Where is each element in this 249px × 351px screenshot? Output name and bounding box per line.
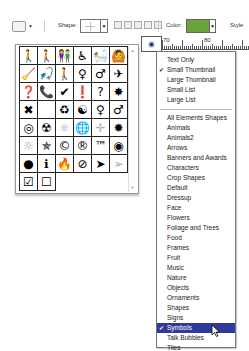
shape-cell[interactable]: ✛ <box>92 119 110 137</box>
menu-item-text-only[interactable]: Text Only <box>157 55 235 65</box>
shape-cell[interactable]: ⚛ <box>56 119 74 137</box>
shape-cell[interactable]: ☼ <box>20 137 38 155</box>
menu-item-all-elements-shapes[interactable]: All Elements Shapes <box>157 113 235 123</box>
ruler-tick <box>208 46 209 49</box>
menu-item-frames[interactable]: Frames <box>157 243 235 253</box>
shape-cell[interactable]: ® <box>74 137 92 155</box>
menu-item-label: Symbols <box>167 324 192 331</box>
shape-cell[interactable]: ™ <box>92 137 110 155</box>
menu-item-large-thumbnail[interactable]: Large Thumbnail <box>157 75 235 85</box>
shape-cell[interactable]: ☑ <box>20 173 38 191</box>
menu-item-tiles[interactable]: Tiles <box>157 343 235 351</box>
menu-item-arrows[interactable]: Arrows <box>157 143 235 153</box>
shape-cell[interactable] <box>38 101 56 119</box>
shape-cell[interactable]: ♀ <box>92 101 110 119</box>
menu-item-label: Banners and Awards <box>167 154 227 161</box>
scrollbar[interactable]: ▲ ▼ <box>128 46 135 192</box>
menu-item-dressup[interactable]: Dressup <box>157 193 235 203</box>
shape-cell[interactable]: ♀ <box>74 65 92 83</box>
menu-item-music[interactable]: Music <box>157 263 235 273</box>
menu-item-nature[interactable]: Nature <box>157 273 235 283</box>
menu-item-small-list[interactable]: Small List <box>157 85 235 95</box>
shape-cell[interactable]: 🚶 <box>20 47 38 65</box>
shape-cell[interactable]: © <box>56 137 74 155</box>
add-mode-icon[interactable] <box>124 21 132 29</box>
shape-cell[interactable]: ✹ <box>110 119 128 137</box>
menu-item-food[interactable]: Food <box>157 233 235 243</box>
menu-item-flowers[interactable]: Flowers <box>157 213 235 223</box>
shape-cell[interactable]: ✯ <box>38 137 56 155</box>
menu-item-foliage-and-trees[interactable]: Foliage and Trees <box>157 223 235 233</box>
ruler-tick <box>246 46 247 49</box>
question-box-icon: ❓ <box>21 86 36 98</box>
ruler-tick <box>174 46 175 49</box>
tool-preset-picker[interactable]: ▼ <box>12 20 34 32</box>
menu-item-crop-shapes[interactable]: Crop Shapes <box>157 173 235 183</box>
ruler-tick <box>178 46 179 49</box>
shape-cell[interactable]: ✔ <box>56 83 74 101</box>
panel-menu-button[interactable] <box>141 36 162 52</box>
menu-item-small-thumbnail[interactable]: ✔Small Thumbnail <box>157 65 235 75</box>
menu-item-characters[interactable]: Characters <box>157 163 235 173</box>
menu-item-animals[interactable]: Animals <box>157 123 235 133</box>
shape-cell[interactable]: ☯ <box>74 101 92 119</box>
menu-item-shapes[interactable]: Shapes <box>157 303 235 313</box>
shape-cell[interactable]: ❗ <box>74 83 92 101</box>
intersect-mode-icon[interactable] <box>144 21 152 29</box>
shape-cell[interactable]: ✖ <box>20 101 38 119</box>
shape-cell[interactable]: ♻ <box>56 101 74 119</box>
splat-2-icon: ✹ <box>113 122 123 134</box>
menu-item-talk-bubbles[interactable]: Talk Bubbles <box>157 333 235 343</box>
menu-item-face[interactable]: Face <box>157 203 235 213</box>
menu-item-fruit[interactable]: Fruit <box>157 253 235 263</box>
menu-item-large-list[interactable]: Large List <box>157 95 235 105</box>
shape-cell[interactable]: 🎣 <box>38 65 56 83</box>
shape-cell[interactable]: 🚶 <box>56 65 74 83</box>
menu-item-banners-and-awards[interactable]: Banners and Awards <box>157 153 235 163</box>
menu-item-signs[interactable]: Signs <box>157 313 235 323</box>
shape-cell[interactable]: ✈ <box>110 65 128 83</box>
shape-cell[interactable]: ✸ <box>110 83 128 101</box>
menu-item-default[interactable]: Default <box>157 183 235 193</box>
shape-cell[interactable]: ➤ <box>92 155 110 173</box>
shape-cell[interactable]: 🧹 <box>20 65 38 83</box>
shape-cell[interactable]: 🌐 <box>74 119 92 137</box>
shape-cell[interactable]: ♂ <box>110 101 128 119</box>
shape-cell[interactable]: ℹ <box>38 155 56 173</box>
menu-item-label: Fruit <box>167 254 180 261</box>
shape-cell[interactable]: ☐ <box>38 173 56 191</box>
sun-light-icon: ☼ <box>23 140 34 152</box>
shape-cell[interactable]: 🛀 <box>92 47 110 65</box>
scroll-up-icon[interactable]: ▲ <box>129 48 136 53</box>
ruler-tick <box>164 46 165 49</box>
shape-cell[interactable]: ♿ <box>74 47 92 65</box>
shape-cell[interactable]: ● <box>20 155 38 173</box>
menu-item-animals2[interactable]: Animals2 <box>157 133 235 143</box>
shape-cell[interactable]: 🔥 <box>56 155 74 173</box>
scroll-down-icon[interactable]: ▼ <box>129 185 136 190</box>
ruler-tick <box>166 46 167 49</box>
shape-cell[interactable]: ♂ <box>92 65 110 83</box>
shape-cell[interactable]: ➢ <box>110 155 128 173</box>
shape-cell[interactable]: ☢ <box>38 119 56 137</box>
menu-item-label: Arrows <box>167 144 187 151</box>
shape-cell[interactable]: ⊘ <box>74 155 92 173</box>
shape-cell[interactable]: ◎ <box>20 119 38 137</box>
shape-cell[interactable]: 👫 <box>56 47 74 65</box>
shape-cell[interactable]: ? <box>92 83 110 101</box>
menu-item-ornaments[interactable]: Ornaments <box>157 293 235 303</box>
shape-cell[interactable]: 🙆 <box>110 47 128 65</box>
new-layer-mode-icon[interactable] <box>114 21 122 29</box>
shape-picker-dropdown[interactable]: ▼ <box>80 19 108 33</box>
shape-cell[interactable]: 📞 <box>38 83 56 101</box>
shape-cell[interactable]: ◉ <box>110 137 128 155</box>
menu-item-label: Characters <box>167 164 199 171</box>
bathing-icon: 🛀 <box>93 50 108 62</box>
shape-cell[interactable]: ❓ <box>20 83 38 101</box>
subtract-mode-icon[interactable] <box>134 21 142 29</box>
menu-item-objects[interactable]: Objects <box>157 283 235 293</box>
shape-cell[interactable]: 🚶 <box>38 47 56 65</box>
color-swatch[interactable]: ▼ <box>186 19 216 33</box>
menu-item-symbols[interactable]: ✔Symbols <box>157 323 235 333</box>
trademark-icon: ™ <box>95 140 107 152</box>
